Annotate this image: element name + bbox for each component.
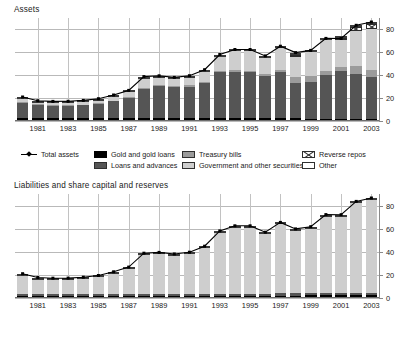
legend-label: Gold and gold loans bbox=[111, 150, 175, 159]
bar-segment bbox=[335, 40, 347, 67]
y-tick-label: 80 bbox=[379, 25, 394, 34]
legend-label: Other bbox=[319, 161, 337, 170]
x-tick-label: 1993 bbox=[212, 124, 228, 133]
chart-page: Assets 020406080 19811983198519871989199… bbox=[0, 0, 417, 354]
liabilities-plot-area: 020406080 bbox=[15, 194, 380, 298]
bar bbox=[335, 215, 347, 298]
y-tick-label: 80 bbox=[379, 201, 394, 210]
bar bbox=[350, 25, 362, 121]
legend-swatch bbox=[182, 162, 195, 169]
x-tick-label: 2001 bbox=[333, 301, 349, 310]
legend-label: Treasury bills bbox=[199, 150, 241, 159]
legend-swatch bbox=[182, 151, 195, 158]
x-tick-label: 1999 bbox=[303, 301, 319, 310]
legend-label: Loans and advances bbox=[111, 161, 177, 170]
assets-x-labels: 1981198319851987198919911993199519971999… bbox=[15, 124, 380, 136]
x-tick-label: 1993 bbox=[212, 301, 228, 310]
y-tick-label: 20 bbox=[379, 94, 394, 103]
y-tick-label: 0 bbox=[379, 117, 390, 126]
bar-segment bbox=[366, 24, 378, 29]
bar bbox=[350, 201, 362, 298]
liabilities-title: Liabilities and share capital and reserv… bbox=[14, 181, 168, 190]
x-tick-label: 1987 bbox=[121, 301, 137, 310]
assets-title: Assets bbox=[14, 5, 39, 14]
legend-item: Gold and gold loans bbox=[94, 150, 175, 159]
bar-segment bbox=[320, 75, 332, 119]
x-tick-label: 1995 bbox=[242, 301, 258, 310]
bar-segment bbox=[366, 77, 378, 119]
x-tick-label: 1985 bbox=[90, 124, 106, 133]
legend-item: Loans and advances bbox=[94, 161, 177, 170]
bar bbox=[335, 36, 347, 121]
bar-segment bbox=[320, 40, 332, 70]
liabilities-panel: Liabilities and share capital and reserv… bbox=[0, 176, 417, 354]
legend-swatch bbox=[94, 151, 107, 158]
bar-segment bbox=[335, 71, 347, 118]
line-marker-icon bbox=[21, 151, 37, 158]
bar bbox=[320, 38, 332, 121]
bar-segment bbox=[350, 31, 362, 67]
x-tick-label: 1991 bbox=[181, 124, 197, 133]
x-tick-label: 1995 bbox=[242, 124, 258, 133]
bar-segment bbox=[366, 200, 378, 293]
x-tick-label: 1991 bbox=[181, 301, 197, 310]
liabilities-total-line bbox=[15, 194, 315, 344]
y-tick-label: 0 bbox=[379, 294, 390, 303]
legend-label: Government and other securities bbox=[199, 161, 303, 170]
y-tick-label: 40 bbox=[379, 71, 394, 80]
assets-total-line bbox=[15, 18, 315, 168]
legend-label: Total assets bbox=[41, 150, 79, 159]
liabilities-axis-baseline bbox=[15, 297, 379, 298]
legend-label: Reverse repos bbox=[319, 150, 366, 159]
bar bbox=[366, 198, 378, 298]
legend-item: Other bbox=[302, 161, 337, 170]
x-tick-label: 1997 bbox=[272, 124, 288, 133]
x-tick-label: 1981 bbox=[30, 301, 46, 310]
legend-swatch bbox=[302, 151, 315, 158]
x-tick-label: 1987 bbox=[121, 124, 137, 133]
bar-segment bbox=[366, 29, 378, 70]
x-tick-label: 1981 bbox=[30, 124, 46, 133]
bar bbox=[366, 22, 378, 121]
legend-item: Government and other securities bbox=[182, 161, 303, 170]
x-tick-label: 1989 bbox=[151, 124, 167, 133]
y-tick-label: 20 bbox=[379, 270, 394, 279]
liabilities-x-labels: 1981198319851987198919911993199519971999… bbox=[15, 301, 380, 313]
bar-segment bbox=[350, 66, 362, 73]
y-tick-label: 40 bbox=[379, 247, 394, 256]
legend-item: Reverse repos bbox=[302, 150, 366, 159]
assets-plot-area: 020406080 bbox=[15, 18, 380, 121]
bar-segment bbox=[366, 70, 378, 77]
x-tick-label: 1985 bbox=[90, 301, 106, 310]
x-tick-label: 2003 bbox=[363, 124, 379, 133]
bar bbox=[320, 215, 332, 298]
x-tick-label: 1989 bbox=[151, 301, 167, 310]
x-tick-label: 2001 bbox=[333, 124, 349, 133]
x-tick-label: 1999 bbox=[303, 124, 319, 133]
legend-swatch bbox=[302, 162, 315, 169]
x-tick-label: 1997 bbox=[272, 301, 288, 310]
legend-item-total-line: Total assets bbox=[21, 150, 79, 159]
assets-axis-baseline bbox=[15, 120, 379, 121]
bar-segment bbox=[350, 203, 362, 292]
legend-swatch bbox=[94, 162, 107, 169]
bar-segment bbox=[350, 74, 362, 119]
x-tick-label: 1983 bbox=[60, 301, 76, 310]
bar-segment bbox=[320, 217, 332, 294]
assets-panel: Assets 020406080 19811983198519871989199… bbox=[0, 0, 417, 176]
y-tick-label: 60 bbox=[379, 48, 394, 57]
bar-segment bbox=[335, 217, 347, 293]
x-tick-label: 2003 bbox=[363, 301, 379, 310]
legend-item: Treasury bills bbox=[182, 150, 241, 159]
y-tick-label: 60 bbox=[379, 224, 394, 233]
assets-legend: Total assetsGold and gold loansTreasury … bbox=[16, 150, 411, 172]
x-tick-label: 1983 bbox=[60, 124, 76, 133]
